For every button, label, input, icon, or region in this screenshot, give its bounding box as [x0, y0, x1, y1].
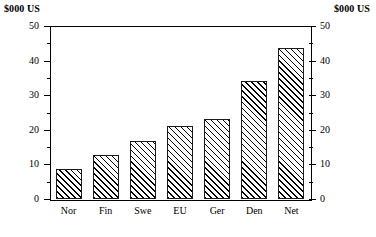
y-axis-tick-label-left: 20	[29, 125, 39, 135]
y-axis-major-tick-right	[309, 61, 316, 62]
y-axis-major-tick-right	[309, 26, 316, 27]
bar	[167, 126, 193, 199]
y-axis-tick-label-right: 0	[320, 194, 325, 204]
y-axis-unit-label-right: $000 US	[334, 3, 370, 15]
x-axis-tick-label: Net	[273, 205, 310, 216]
x-axis-tick-label: Ger	[199, 205, 236, 216]
y-axis-tick-label-right: 10	[320, 159, 330, 169]
y-axis-tick-label-left: 30	[29, 90, 39, 100]
y-axis-major-tick-right	[309, 95, 316, 96]
x-axis-tick-label: EU	[161, 205, 198, 216]
y-axis-tick-label-right: 20	[320, 125, 330, 135]
x-axis-tick-label: Fin	[87, 205, 124, 216]
bar	[130, 141, 156, 199]
x-axis-tick-label: Swe	[124, 205, 161, 216]
x-axis-tick-label: Den	[236, 205, 273, 216]
y-axis-tick-label-right: 30	[320, 90, 330, 100]
y-axis-tick-label-left: 50	[29, 21, 39, 31]
bar	[93, 155, 119, 199]
x-axis-tick-label: Nor	[50, 205, 87, 216]
y-axis-tick-label-left: 40	[29, 56, 39, 66]
y-axis-unit-label-left: $000 US	[4, 3, 40, 15]
y-axis-major-tick-right	[309, 164, 316, 165]
y-axis-tick-label-right: 50	[320, 21, 330, 31]
bar	[278, 48, 304, 199]
y-axis-major-tick-right	[309, 130, 316, 131]
bar	[204, 119, 230, 199]
bar-chart: $000 US $000 US 0010102020303040405050 N…	[0, 0, 376, 237]
y-axis-tick-label-right: 40	[320, 56, 330, 66]
bar	[56, 169, 82, 199]
y-axis-tick-label-left: 0	[34, 194, 39, 204]
bar-series	[50, 26, 310, 199]
y-axis-major-tick-right	[309, 199, 316, 200]
y-axis-major-tick-left	[44, 199, 51, 200]
y-axis-tick-label-left: 10	[29, 159, 39, 169]
bar	[241, 81, 267, 199]
